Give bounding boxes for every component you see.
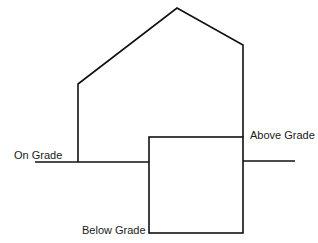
house-outline bbox=[78, 8, 243, 162]
on-grade-label: On Grade bbox=[14, 149, 62, 161]
above-grade-label: Above Grade bbox=[250, 129, 315, 141]
basement-box bbox=[149, 137, 243, 233]
below-grade-label: Below Grade bbox=[82, 224, 146, 236]
building-section-diagram bbox=[0, 0, 318, 243]
